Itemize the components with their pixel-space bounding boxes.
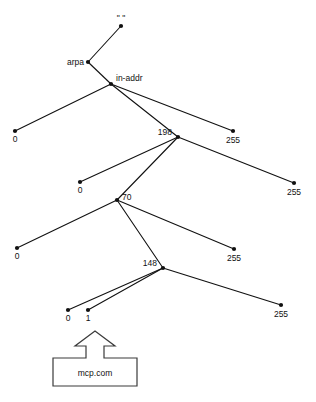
node-dot-l3-0 [15, 246, 19, 250]
node-label-l1-0: 0 [13, 134, 18, 144]
node-dot-l2-0 [78, 180, 82, 184]
node-dot-in-addr [109, 82, 113, 86]
tree-edge-root-to-arpa [88, 26, 121, 62]
tree-edge-n198-to-n70 [117, 137, 178, 200]
tree-edge-arpa-to-in-addr [88, 62, 111, 84]
tree-canvas: " "arpain-addr0198255070255014825501255 … [0, 0, 316, 402]
tree-node-root[interactable]: " " [117, 13, 125, 28]
node-dot-l1-0 [13, 129, 17, 133]
node-label-arpa: arpa [67, 57, 84, 67]
tree-node-in-addr[interactable]: in-addr [109, 73, 143, 86]
tree-node-l1-255[interactable]: 255 [226, 129, 240, 145]
tree-node-n198[interactable]: 198 [158, 127, 180, 139]
node-label-root: " " [117, 13, 125, 23]
node-dot-l4-255 [279, 303, 283, 307]
tree-edge-n148-to-l4-0 [68, 268, 163, 310]
tree-node-l4-1[interactable]: 1 [86, 308, 91, 323]
node-dot-l3-255 [232, 247, 236, 251]
node-dot-root [119, 24, 123, 28]
node-label-n148: 148 [143, 258, 157, 268]
tree-node-l4-0[interactable]: 0 [66, 308, 71, 323]
node-label-l3-255: 255 [227, 253, 241, 263]
tree-edge-n198-to-l2-0 [80, 137, 178, 182]
node-label-l2-0: 0 [78, 185, 83, 195]
tree-node-l3-255[interactable]: 255 [227, 247, 241, 263]
nodes-group: " "arpain-addr0198255070255014825501255 [13, 13, 302, 323]
node-label-l4-1: 1 [86, 313, 91, 323]
node-dot-l2-255 [292, 181, 296, 185]
tree-edge-n70-to-l3-255 [117, 200, 234, 249]
tree-node-l4-255[interactable]: 255 [274, 303, 288, 319]
tree-node-l2-255[interactable]: 255 [287, 181, 301, 197]
node-dot-n148 [161, 266, 165, 270]
node-label-l4-0: 0 [66, 313, 71, 323]
tree-edge-n148-to-l4-1 [88, 268, 163, 310]
node-dot-n70 [115, 198, 119, 202]
node-label-in-addr: in-addr [116, 73, 143, 83]
callout-label: mcp.com [78, 368, 112, 378]
tree-node-l1-0[interactable]: 0 [13, 129, 18, 144]
node-label-l1-255: 255 [226, 135, 240, 145]
node-label-n70: 70 [122, 192, 132, 202]
node-label-l2-255: 255 [287, 187, 301, 197]
node-dot-l4-0 [66, 308, 70, 312]
tree-edge-n70-to-l3-0 [17, 200, 117, 248]
mcp-callout: mcp.com [53, 331, 137, 386]
node-label-l4-255: 255 [274, 309, 288, 319]
tree-node-arpa[interactable]: arpa [67, 57, 90, 67]
node-dot-l1-255 [231, 129, 235, 133]
tree-node-l3-0[interactable]: 0 [15, 246, 20, 261]
tree-node-n148[interactable]: 148 [143, 258, 165, 270]
tree-node-l2-0[interactable]: 0 [78, 180, 83, 195]
node-dot-arpa [86, 60, 90, 64]
tree-edge-n148-to-l4-255 [163, 268, 281, 305]
tree-edge-in-addr-to-l1-0 [15, 84, 111, 131]
tree-edge-in-addr-to-l1-255 [111, 84, 233, 131]
tree-node-n70[interactable]: 70 [115, 192, 132, 202]
node-label-n198: 198 [158, 127, 172, 137]
node-dot-l4-1 [86, 308, 90, 312]
node-label-l3-0: 0 [15, 251, 20, 261]
node-dot-n198 [176, 135, 180, 139]
dns-tree-diagram: " "arpain-addr0198255070255014825501255 … [0, 0, 316, 402]
